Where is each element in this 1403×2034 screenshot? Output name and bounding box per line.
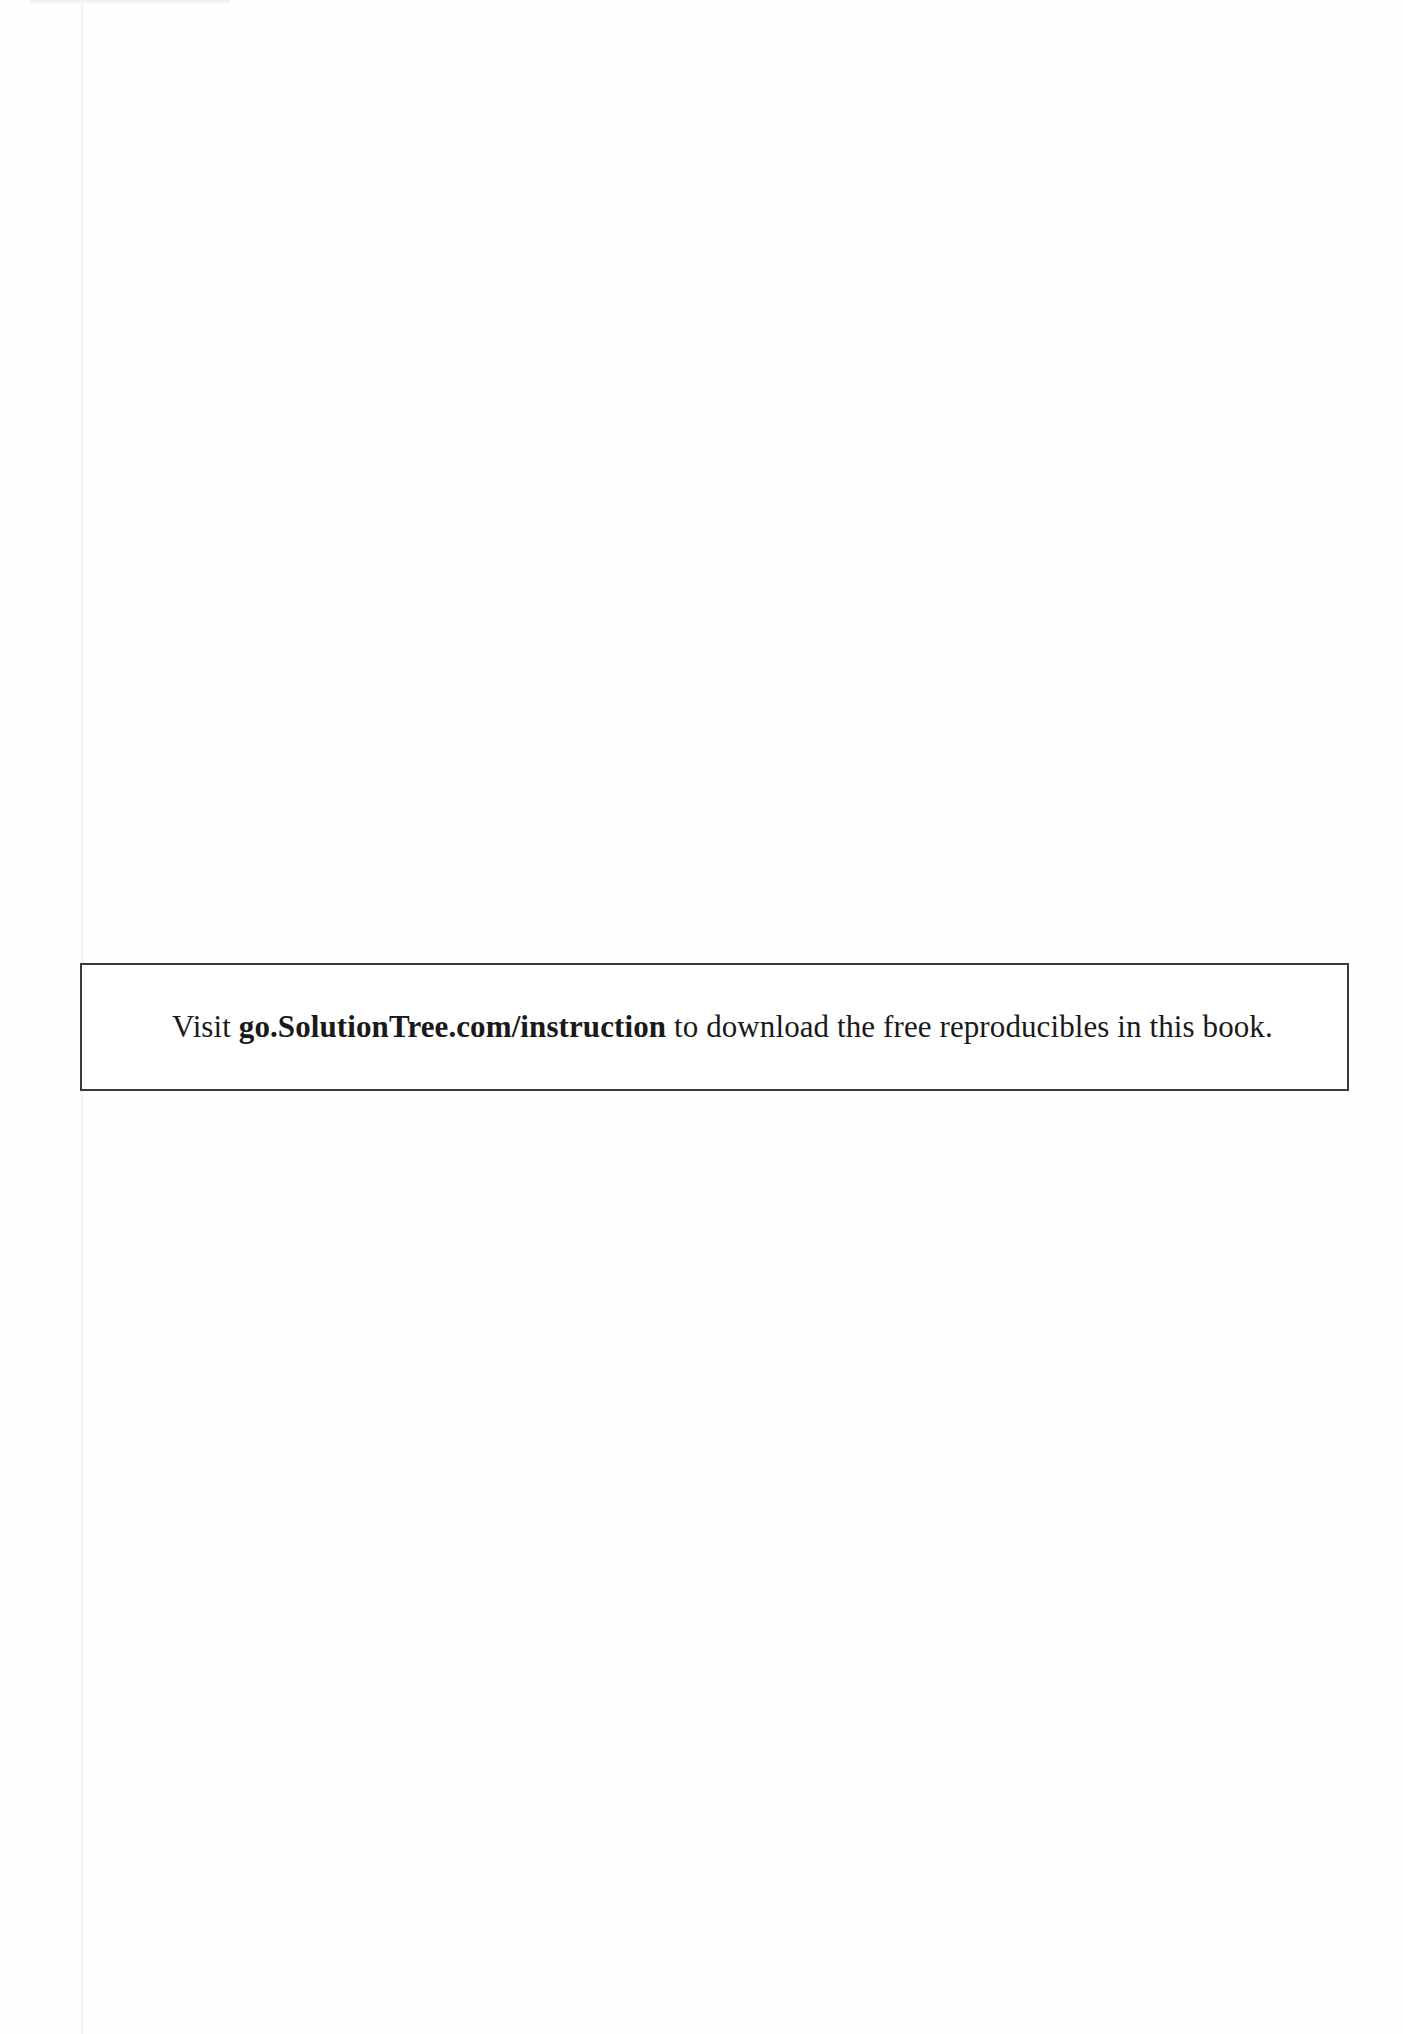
- notice-text: Visit go.SolutionTree.com/instruction to…: [172, 1009, 1273, 1045]
- notice-suffix: to download the free reproducibles in th…: [666, 1009, 1273, 1044]
- notice-url-link[interactable]: go.SolutionTree.com/instruction: [239, 1009, 666, 1044]
- notice-prefix: Visit: [172, 1009, 239, 1044]
- scan-artifact-top: [30, 0, 230, 4]
- reproducibles-notice-box: Visit go.SolutionTree.com/instruction to…: [80, 963, 1349, 1091]
